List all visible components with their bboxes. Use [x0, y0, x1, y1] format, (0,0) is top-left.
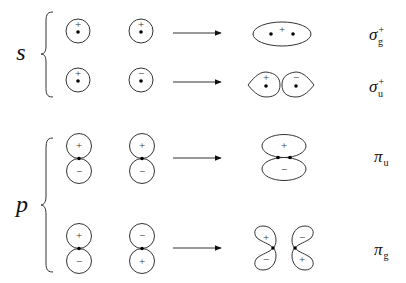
nucleus-dot	[77, 247, 81, 251]
sigma-g-row: + + + σ+g	[66, 18, 384, 47]
s-group: s + + + σ+g + −	[16, 12, 384, 99]
nucleus-dot	[294, 84, 298, 88]
sign: −	[139, 229, 145, 241]
sign: +	[75, 18, 81, 30]
pi-u-row: + − + − + − πu	[67, 134, 389, 184]
nucleus-dot	[76, 79, 80, 83]
sign: +	[299, 253, 305, 265]
sign: −	[263, 253, 269, 265]
sign: +	[139, 139, 145, 151]
nucleus-dot	[288, 156, 292, 160]
sign: +	[279, 23, 285, 35]
nucleus-dot	[269, 32, 273, 36]
p-group: p + − + − + − πu +	[14, 134, 389, 274]
sign: +	[138, 18, 144, 30]
sign: −	[138, 67, 144, 79]
p-label: p	[14, 191, 28, 217]
nucleus-dot	[264, 84, 268, 88]
sign: +	[76, 139, 82, 151]
s-label: s	[16, 39, 25, 65]
sign: −	[293, 71, 299, 83]
nucleus-dot	[271, 246, 275, 250]
nucleus-dot	[291, 32, 295, 36]
nucleus-dot	[139, 79, 143, 83]
nucleus-dot	[77, 157, 81, 161]
p-brace	[41, 138, 53, 272]
sign: −	[281, 163, 287, 175]
sign: +	[139, 255, 145, 267]
mo-label-pi-g: πg	[374, 240, 389, 261]
nucleus-dot	[276, 156, 280, 160]
sign: −	[299, 231, 305, 243]
sign: −	[139, 165, 145, 177]
nucleus-dot	[293, 246, 297, 250]
sign: +	[263, 231, 269, 243]
mo-label-sigma-u: σ+u	[369, 76, 384, 99]
sign: +	[263, 71, 269, 83]
sign: +	[76, 229, 82, 241]
nucleus-dot	[76, 30, 80, 34]
mo-label-pi-u: πu	[374, 147, 389, 168]
mo-diagram: s + + + σ+g + −	[0, 0, 406, 283]
nucleus-dot	[140, 247, 144, 251]
sign: +	[75, 67, 81, 79]
nucleus-dot	[139, 30, 143, 34]
mo-label-sigma-g: σ+g	[369, 24, 384, 47]
nucleus-dot	[140, 157, 144, 161]
sign: +	[281, 139, 287, 151]
sigma-u-row: + − + − σ+u	[66, 67, 384, 99]
s-brace	[41, 12, 53, 97]
pi-g-row: + − − + + − − + πg	[67, 224, 389, 274]
sign: −	[76, 255, 82, 267]
sign: −	[76, 165, 82, 177]
